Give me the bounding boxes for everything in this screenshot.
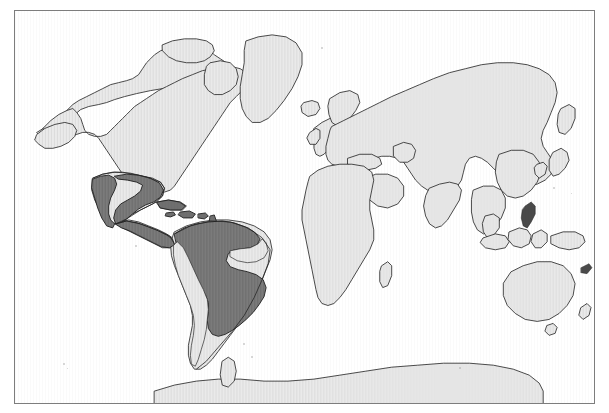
scan-speck <box>553 187 555 189</box>
landmass-tasmania <box>545 323 557 335</box>
landmass-caspian-region <box>394 142 416 162</box>
scan-speck <box>243 343 245 345</box>
scan-speck <box>251 356 253 358</box>
map-frame <box>14 10 595 404</box>
figure-container <box>0 0 609 413</box>
scan-speck <box>63 363 65 365</box>
world-map <box>15 11 594 403</box>
scan-speck <box>571 193 572 194</box>
scan-speck <box>135 245 137 247</box>
scan-speck <box>67 368 68 369</box>
scan-speck <box>321 47 323 49</box>
scan-speck <box>459 367 461 369</box>
